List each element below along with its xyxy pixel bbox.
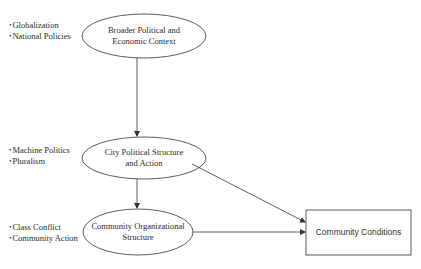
factor-item: Machine Politics	[9, 145, 70, 156]
edge-city-to-conditions	[192, 164, 305, 222]
city-political-label-line2: and Action	[125, 158, 162, 169]
broader-context-label-line2: Economic Context	[112, 36, 176, 47]
community-conditions-label: Community Conditions	[306, 210, 411, 255]
factor-item: Class Conflict	[9, 222, 78, 233]
community-org-label-line2: Structure	[122, 232, 153, 243]
community-org-factors-list: Class Conflict Community Action	[9, 222, 78, 244]
city-factors-list: Machine Politics Pluralism	[9, 145, 70, 167]
factor-item: Pluralism	[9, 156, 70, 167]
city-political-label-line1: City Political Structure	[105, 147, 183, 158]
factor-item: National Policies	[9, 31, 71, 42]
community-org-label-line1: Community Organizational	[91, 221, 184, 232]
broader-context-label-line1: Broader Political and	[108, 25, 180, 36]
city-political-label: City Political Structure and Action	[82, 137, 206, 179]
factor-item: Globalization	[9, 20, 71, 31]
community-conditions-label-text: Community Conditions	[316, 227, 402, 238]
broader-factors-list: Globalization National Policies	[9, 20, 71, 42]
community-org-label: Community Organizational Structure	[83, 209, 193, 255]
broader-context-label: Broader Political and Economic Context	[82, 14, 206, 58]
factor-item: Community Action	[9, 233, 78, 244]
